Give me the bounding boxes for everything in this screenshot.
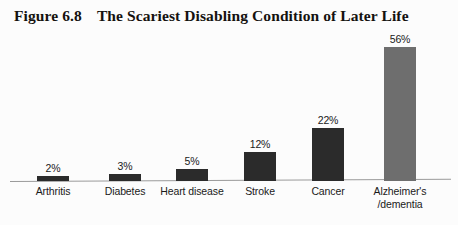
bar-value-label: 12% <box>223 138 297 150</box>
bar-group-alzheimers-dementia: 56% Alzheimer's /dementia <box>363 33 437 181</box>
bar-rect <box>37 176 69 181</box>
bar-rect <box>176 169 208 181</box>
bar-group-cancer: 22% Cancer <box>291 114 365 181</box>
bar-category-label: Alzheimer's /dementia <box>363 185 437 210</box>
bar-value-label: 2% <box>16 162 90 174</box>
bar-group-heart-disease: 5% Heart disease <box>155 155 229 181</box>
bar-category-label: Stroke <box>223 185 297 198</box>
bar-value-label: 3% <box>88 160 162 172</box>
bar-category-label: Cancer <box>291 185 365 198</box>
bar-group-arthritis: 2% Arthritis <box>16 162 90 181</box>
bar-rect <box>109 174 141 181</box>
bar-category-label: Diabetes <box>88 185 162 198</box>
bar-value-label: 22% <box>291 114 365 126</box>
bar-category-label: Heart disease <box>155 185 229 198</box>
bar-rect <box>312 128 344 181</box>
bar-group-stroke: 12% Stroke <box>223 138 297 181</box>
bar-rect <box>244 152 276 181</box>
bar-group-diabetes: 3% Diabetes <box>88 160 162 181</box>
bar-value-label: 5% <box>155 155 229 167</box>
bar-chart-plot-area: 2% Arthritis 3% Diabetes 5% Heart diseas… <box>0 0 458 225</box>
bar-rect <box>384 47 416 181</box>
bar-category-label: Arthritis <box>16 185 90 198</box>
bar-value-label: 56% <box>363 33 437 45</box>
